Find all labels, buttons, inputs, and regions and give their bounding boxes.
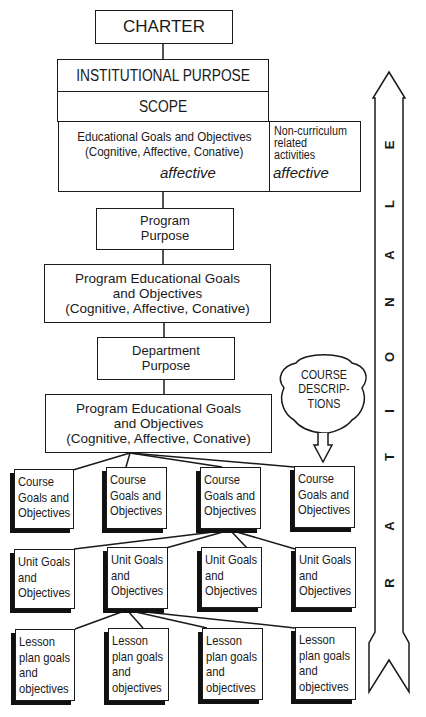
lesson-goals-line4: objectives [19,681,66,697]
course-goals-line2: Goals and [204,488,252,504]
lesson-goals-line1: Lesson [19,634,66,650]
course-descriptions-line2: DESCRIP- [286,382,362,396]
program-goals-1-line2: and Objectives [113,286,202,301]
lesson-goals-line4: objectives [206,680,254,696]
course-goals-line2: Goals and [110,488,158,504]
course-goals-line2: Goals and [298,487,346,503]
lesson-goals-line2: plan goals [206,649,254,665]
course-goals-line1: Course [110,472,158,488]
course-goals-line3: Objectives [298,502,346,518]
lesson-goals-box: Lesson plan goals and objectives [295,627,356,700]
unit-goals-line3: Objectives [299,583,347,599]
course-goals-line1: Course [18,474,65,490]
unit-goals-line2: and [299,568,347,584]
department-purpose-line2: Purpose [142,359,190,374]
unit-goals-line3: Objectives [205,583,253,599]
lesson-goals-line2: plan goals [299,648,347,664]
program-goals-2-line3: (Cognitive, Affective, Conative) [66,431,250,446]
program-goals-2-line1: Program Educational Goals [76,401,241,416]
unit-goals-box: Unit Goals and Objectives [201,547,262,608]
program-purpose-box: Program Purpose [96,208,234,250]
course-goals-box: Course Goals and Objectives [106,467,167,529]
program-goals-1-line3: (Cognitive, Affective, Conative) [65,301,249,316]
course-goals-line1: Course [204,472,252,488]
program-goals-1-line1: Program Educational Goals [75,271,240,286]
lesson-goals-box: Lesson plan goals and objectives [108,628,169,701]
rationale-letter: A [382,250,397,259]
educational-goals-line2: (Cognitive, Affective, Conative) [85,144,244,159]
institutional-purpose-box: INSTITUTIONAL PURPOSE [57,59,269,92]
charter-box: CHARTER [95,10,233,44]
educational-goals-line1: Educational Goals and Objectives [77,129,251,144]
rationale-letter: T [382,453,397,461]
lesson-goals-line2: plan goals [112,649,160,665]
affective-label-left: affective [160,164,216,181]
lesson-goals-line3: and [19,665,66,681]
non-curriculum-box: Non-curriculum related activities [269,121,361,192]
unit-goals-line1: Unit Goals [18,554,66,570]
unit-goals-box: Unit Goals and Objectives [295,547,356,608]
affective-label-right: affective [273,164,329,181]
non-curriculum-line3: activities [274,150,315,162]
scope-label: SCOPE [139,98,187,116]
unit-goals-line1: Unit Goals [111,552,159,568]
unit-goals-line2: and [205,568,253,584]
lesson-goals-line1: Lesson [299,632,347,648]
course-goals-line1: Course [298,471,346,487]
rationale-letter: R [382,578,397,587]
rationale-letter: A [382,521,397,530]
course-goals-line3: Objectives [204,503,252,519]
unit-goals-line1: Unit Goals [299,552,347,568]
rationale-letter: L [382,200,397,208]
unit-goals-line2: and [111,568,159,584]
course-goals-box: Course Goals and Objectives [14,469,74,529]
unit-goals-box: Unit Goals and Objectives [107,547,168,609]
department-purpose-box: Department Purpose [97,337,235,380]
program-goals-box-2: Program Educational Goals and Objectives… [45,394,272,453]
lesson-goals-line2: plan goals [19,650,66,666]
lesson-goals-line4: objectives [112,680,160,696]
charter-label: CHARTER [123,17,205,36]
program-purpose-line2: Purpose [141,229,189,244]
lesson-goals-line4: objectives [299,679,347,695]
unit-goals-line3: Objectives [111,583,159,599]
course-goals-box: Course Goals and Objectives [294,466,355,528]
lesson-goals-line3: and [206,664,254,680]
scope-box: SCOPE [57,91,269,122]
institutional-purpose-label: INSTITUTIONAL PURPOSE [76,67,250,85]
lesson-goals-line3: and [112,664,160,680]
unit-goals-line3: Objectives [18,585,66,601]
lesson-goals-box: Lesson plan goals and objectives [15,629,75,701]
program-goals-2-line2: and Objectives [114,416,203,431]
program-goals-box-1: Program Educational Goals and Objectives… [44,264,271,323]
lesson-goals-line1: Lesson [112,633,160,649]
course-descriptions-line3: TIONS [286,397,362,411]
course-goals-line2: Goals and [18,490,65,506]
lesson-goals-line1: Lesson [206,633,254,649]
unit-goals-line2: and [18,570,66,586]
lesson-goals-line3: and [299,663,347,679]
unit-goals-box: Unit Goals and Objectives [14,549,75,609]
rationale-letter: N [382,297,397,306]
program-purpose-line1: Program [140,214,190,229]
course-descriptions-line1: COURSE [286,368,362,382]
unit-goals-line1: Unit Goals [205,552,253,568]
rationale-letter: O [382,352,397,362]
rationale-letter: I [382,409,397,413]
rationale-arrow-icon [369,72,409,692]
course-goals-box: Course Goals and Objectives [200,467,261,529]
course-goals-line3: Objectives [110,503,158,519]
educational-goals-box: Educational Goals and Objectives (Cognit… [58,121,270,192]
lesson-goals-box: Lesson plan goals and objectives [202,628,263,700]
course-descriptions-text: COURSE DESCRIP- TIONS [280,368,368,411]
department-purpose-line1: Department [132,344,200,359]
course-goals-line3: Objectives [18,505,65,521]
rationale-letter: E [382,141,397,150]
